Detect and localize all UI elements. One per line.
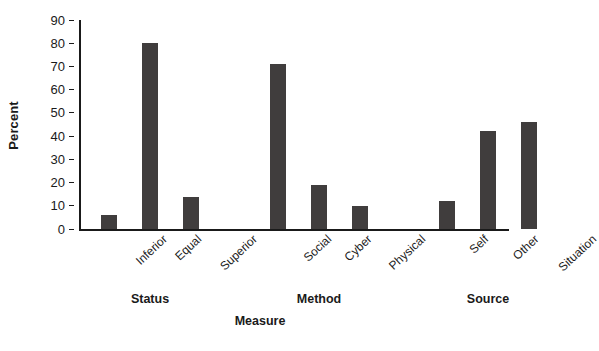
x-axis-group-label: Method xyxy=(297,292,341,306)
y-axis-tick-mark xyxy=(69,43,74,44)
y-axis-title: Percent xyxy=(2,0,24,250)
y-axis-tick-mark xyxy=(69,159,74,160)
plot-area xyxy=(79,20,509,229)
bar xyxy=(311,185,327,229)
y-axis-tick-mark xyxy=(69,182,74,183)
x-axis-group-labels: StatusMethodSource xyxy=(79,292,509,310)
x-axis-category-labels: InferiorEqualSuperiorSocialCyberPhysical… xyxy=(79,232,509,292)
y-axis-tick-label: 0 xyxy=(58,223,69,236)
y-axis-tick-mark xyxy=(69,112,74,113)
y-axis-tick-label: 80 xyxy=(51,37,69,50)
y-axis-tick-label: 10 xyxy=(51,199,69,212)
x-axis-group-label: Source xyxy=(467,292,509,306)
y-axis-tick-label: 50 xyxy=(51,106,69,119)
y-axis-tick-label: 60 xyxy=(51,83,69,96)
bar xyxy=(521,122,537,229)
x-axis-line xyxy=(79,229,509,231)
y-axis-tick-mark xyxy=(69,89,74,90)
x-axis-title: Measure xyxy=(0,314,520,328)
y-axis-tick-label: 20 xyxy=(51,176,69,189)
x-axis-category-label: Physical xyxy=(386,232,428,273)
y-axis-tick-label: 40 xyxy=(51,130,69,143)
bar xyxy=(101,215,117,229)
bar xyxy=(480,131,496,229)
y-axis-tick-mark xyxy=(69,66,74,67)
x-axis-category-label: Other xyxy=(510,232,542,263)
x-axis-category-label: Superior xyxy=(217,232,260,273)
x-axis-category-label: Equal xyxy=(172,232,204,263)
y-axis-tick-label: 90 xyxy=(51,14,69,27)
bar xyxy=(183,197,199,230)
y-axis-tick-mark xyxy=(69,136,74,137)
y-axis-tick-mark xyxy=(69,229,74,230)
x-axis-category-label: Cyber xyxy=(342,232,375,264)
y-axis-tick-mark xyxy=(69,20,74,21)
x-axis-category-label: Social xyxy=(301,232,334,265)
x-axis-group-label: Status xyxy=(131,292,169,306)
x-axis-category-label: Self xyxy=(467,232,492,256)
y-axis-ticks: 0102030405060708090 xyxy=(26,0,74,260)
bar xyxy=(142,43,158,229)
y-axis-title-text: Percent xyxy=(6,101,21,149)
y-axis-tick-mark xyxy=(69,205,74,206)
bar xyxy=(439,201,455,229)
x-axis-category-label: Situation xyxy=(556,232,599,274)
bar xyxy=(352,206,368,229)
x-axis-category-label: Inferior xyxy=(133,232,170,268)
y-axis-tick-label: 30 xyxy=(51,153,69,166)
y-axis-tick-label: 70 xyxy=(51,60,69,73)
bar xyxy=(270,64,286,229)
y-axis-line xyxy=(79,20,81,229)
